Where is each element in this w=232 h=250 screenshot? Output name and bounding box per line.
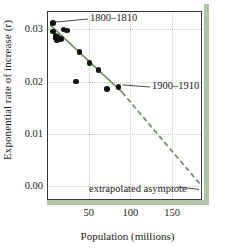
data-point bbox=[64, 28, 70, 34]
gridline-vertical bbox=[172, 12, 173, 199]
data-point bbox=[58, 36, 64, 42]
data-point bbox=[77, 49, 83, 55]
data-point bbox=[50, 20, 56, 26]
population-growth-rate-chart: Exponential rate of increase (r) Populat… bbox=[0, 0, 232, 250]
annotation-1800-1810: 1800–1810 bbox=[90, 12, 137, 23]
data-point bbox=[87, 60, 93, 66]
x-tick-label: 50 bbox=[69, 207, 109, 218]
y-tick-label: 0.01 bbox=[1, 129, 43, 139]
x-tick-label: 100 bbox=[110, 207, 150, 218]
accent-rail-right bbox=[204, 4, 209, 205]
plot-area bbox=[47, 11, 202, 200]
y-tick-label: 0.00 bbox=[1, 181, 43, 191]
gridline-horizontal bbox=[48, 134, 201, 135]
gridline-vertical bbox=[130, 12, 131, 199]
y-tick-label: 0.03 bbox=[1, 24, 43, 34]
annotation-extrapolated-asymptote: extrapolated asymptote bbox=[89, 183, 187, 194]
y-tick-label: 0.02 bbox=[1, 77, 43, 87]
gridline-vertical bbox=[89, 12, 90, 199]
gridline-horizontal bbox=[48, 29, 201, 30]
annotation-1900-1910: 1900–1910 bbox=[152, 80, 199, 91]
accent-rail-bottom bbox=[47, 200, 209, 205]
data-point bbox=[104, 86, 110, 92]
x-tick-label: 150 bbox=[152, 207, 192, 218]
x-axis-title: Population (millions) bbox=[40, 230, 215, 242]
